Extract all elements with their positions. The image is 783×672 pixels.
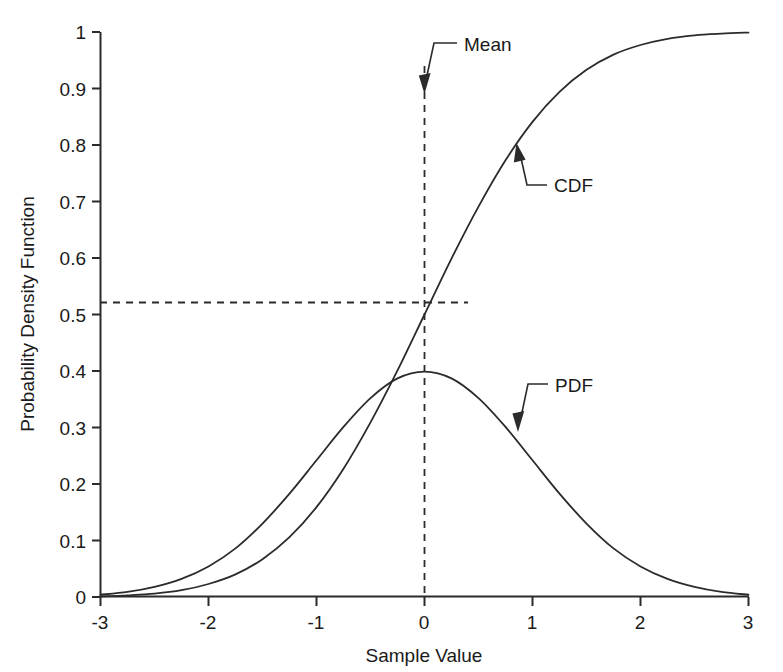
cdf-leader-line <box>521 158 547 185</box>
y-tick-label-0-8: 0.8 <box>60 135 86 156</box>
x-axis-title: Sample Value <box>366 645 483 666</box>
y-tick-label-0: 0 <box>75 587 86 608</box>
x-tick-label-1: 1 <box>527 612 538 633</box>
x-tick-label-neg1: -1 <box>308 612 325 633</box>
y-tick-label-0-5: 0.5 <box>60 305 86 326</box>
annotation-mean: Mean <box>419 34 512 94</box>
y-axis-tick-labels: 1 0.9 0.8 0.7 0.6 0.5 0.4 0.3 0.2 0.1 0 <box>60 22 87 608</box>
mean-arrow-head <box>419 73 431 94</box>
y-tick-label-1: 1 <box>75 22 86 43</box>
mean-annotation-label: Mean <box>464 34 512 55</box>
x-tick-label-2: 2 <box>635 612 646 633</box>
cdf-annotation-label: CDF <box>554 175 593 196</box>
y-tick-label-0-4: 0.4 <box>60 361 87 382</box>
pdf-annotation-label: PDF <box>555 375 593 396</box>
pdf-leader-line <box>521 384 548 417</box>
y-tick-label-0-6: 0.6 <box>60 248 86 269</box>
y-tick-label-0-2: 0.2 <box>60 474 86 495</box>
x-axis-ticks <box>101 597 749 606</box>
annotation-pdf: PDF <box>512 375 593 432</box>
chart-canvas: 1 0.9 0.8 0.7 0.6 0.5 0.4 0.3 0.2 0.1 0 … <box>0 0 783 672</box>
y-tick-label-0-9: 0.9 <box>60 79 86 100</box>
pdf-arrow-head <box>512 411 524 432</box>
x-axis-tick-labels: -3 -2 -1 0 1 2 3 <box>92 612 754 633</box>
reference-lines-group <box>100 66 468 597</box>
x-tick-label-3: 3 <box>743 612 754 633</box>
y-axis-title: Probability Density Function <box>17 196 38 432</box>
x-tick-label-0: 0 <box>419 612 430 633</box>
annotation-cdf: CDF <box>514 143 593 196</box>
y-tick-label-0-7: 0.7 <box>60 192 86 213</box>
mean-leader-line <box>426 43 457 80</box>
chart-figure: 1 0.9 0.8 0.7 0.6 0.5 0.4 0.3 0.2 0.1 0 … <box>0 0 783 672</box>
y-tick-label-0-1: 0.1 <box>60 531 86 552</box>
y-axis-ticks <box>92 32 100 597</box>
y-tick-label-0-3: 0.3 <box>60 418 86 439</box>
x-tick-label-neg2: -2 <box>200 612 217 633</box>
x-tick-label-neg3: -3 <box>92 612 109 633</box>
